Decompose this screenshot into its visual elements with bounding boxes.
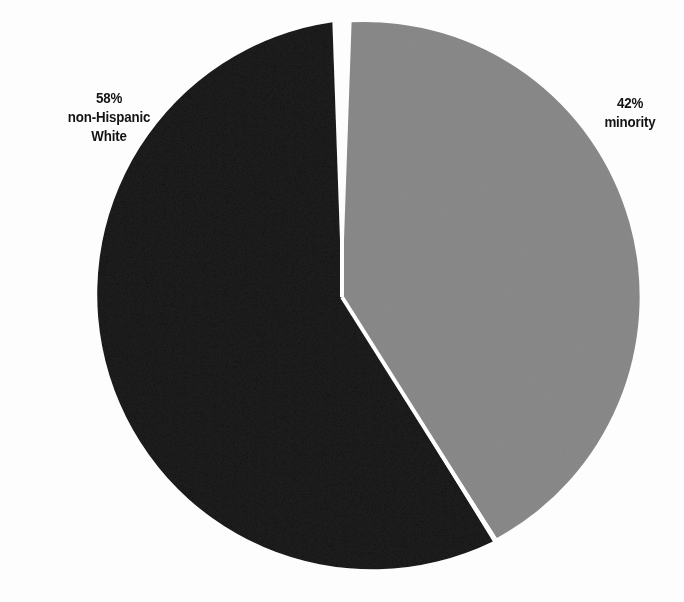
- slice-label-non-hispanic-white: 58% non-Hispanic White: [45, 88, 174, 145]
- slice-category-line-1-non-hispanic-white: non-Hispanic: [45, 107, 174, 126]
- pie-chart-figure: 58% non-Hispanic White 42% minority: [0, 0, 684, 602]
- slice-percent-non-hispanic-white: 58%: [45, 88, 174, 107]
- slice-label-minority: 42% minority: [580, 93, 680, 131]
- slice-percent-minority: 42%: [580, 93, 680, 112]
- slice-category-line-1-minority: minority: [580, 112, 680, 131]
- slice-category-line-2-non-hispanic-white: White: [45, 126, 174, 145]
